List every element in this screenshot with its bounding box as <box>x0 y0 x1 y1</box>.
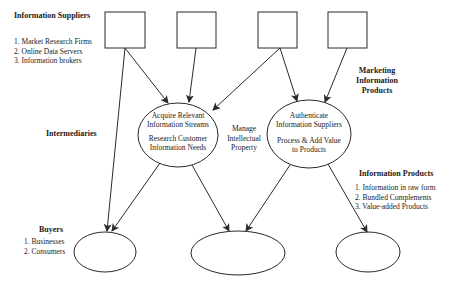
info-products-title: Information Products <box>359 169 433 179</box>
right-buyer-ellipse <box>336 232 400 272</box>
manage-ip-label: Manage Intellectual Property <box>222 124 266 153</box>
supplier-box-2 <box>177 12 216 48</box>
middle-buyer-ellipse <box>191 231 285 275</box>
suppliers-item: 1. Market Research Firms <box>14 37 92 47</box>
suppliers-item: 2. Online Data Servers <box>14 47 92 57</box>
info-products-list: 1. Information in raw form 2. Bundled Co… <box>355 183 436 212</box>
info-products-item: 1. Information in raw form <box>355 183 436 193</box>
acquire-node-text: Acquire Relevant Information Streams Res… <box>138 111 218 152</box>
buyers-list: 1. Businesses 2. Consumers <box>24 237 65 256</box>
supplier-box-3 <box>258 12 297 48</box>
buyers-item: 2. Consumers <box>24 247 65 257</box>
supplier-box-1 <box>105 12 145 48</box>
buyers-ellipse <box>74 232 136 272</box>
buyers-item: 1. Businesses <box>24 237 65 247</box>
buyers-title: Buyers <box>39 225 63 235</box>
marketing-label: Marketing Information Products <box>347 66 407 96</box>
info-products-item: 2. Bundled Complements <box>355 193 436 203</box>
suppliers-item: 3. Information brokers <box>14 56 92 66</box>
supplier-box-4 <box>328 12 367 48</box>
suppliers-title: Information Suppliers <box>14 11 90 21</box>
suppliers-list: 1. Market Research Firms 2. Online Data … <box>14 37 92 66</box>
intermediaries-label: Intermediaries <box>46 129 97 139</box>
authenticate-node-text: Authenticate Information Suppliers Proce… <box>267 111 351 154</box>
info-products-item: 3. Value-added Products <box>355 202 436 212</box>
